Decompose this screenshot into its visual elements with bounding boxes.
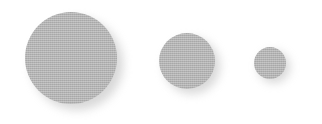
small-circle-disc (254, 47, 286, 79)
shape-medium-circle (159, 33, 215, 89)
image-canvas (0, 0, 322, 124)
shape-large-circle (25, 12, 117, 104)
shape-small-circle (254, 47, 286, 79)
medium-circle-disc (159, 33, 215, 89)
large-circle-disc (25, 12, 117, 104)
